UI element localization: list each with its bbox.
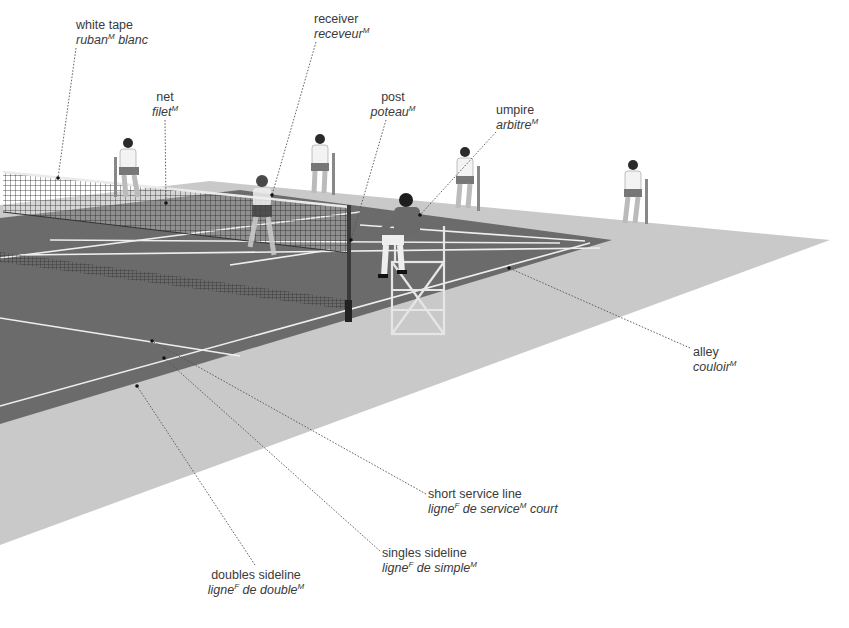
label-post: post poteauM	[360, 90, 426, 120]
spectator-3	[456, 147, 480, 211]
label-short-service-line: short service line ligneF de serviceM co…	[428, 487, 558, 517]
label-doubles-sideline: doubles sideline ligneF de doubleM	[196, 568, 316, 598]
spectator-2	[311, 134, 335, 195]
spectator-4	[624, 160, 648, 224]
label-singles-sideline: singles sideline ligneF de simpleM	[382, 546, 477, 576]
label-umpire: umpire arbitreM	[496, 103, 538, 133]
label-net: net filetM	[138, 90, 192, 120]
label-receiver: receiver receveurM	[314, 12, 369, 42]
label-white-tape: white tape rubanM blanc	[76, 18, 148, 48]
label-alley: alley couloirM	[693, 345, 737, 375]
